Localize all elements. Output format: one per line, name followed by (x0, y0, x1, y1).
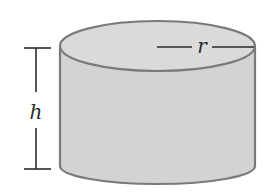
radius-label: r (197, 34, 208, 58)
height-marker: h (24, 48, 51, 169)
cylinder-diagram: r h (0, 0, 271, 194)
cylinder-top (60, 21, 255, 71)
height-label: h (30, 100, 43, 124)
